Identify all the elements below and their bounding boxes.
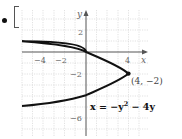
tick-x-neg2: −2	[55, 56, 67, 65]
equation-rhs: − 4y	[128, 101, 155, 112]
equation-lhs: x = −y	[90, 101, 124, 112]
tick-x-neg4: −4	[34, 56, 46, 65]
tick-y-neg6: −6	[70, 114, 82, 123]
equation-label: x = −y2 − 4y	[90, 100, 155, 112]
x-axis-label: x	[141, 55, 146, 65]
y-axis-label: y	[76, 9, 83, 19]
vertex-label: (4, −2)	[131, 76, 163, 86]
tick-y-2: 2	[78, 28, 83, 37]
parabola-graph: x y −4 −2 4 2 −2 −6 (4, −2) x = −y2 − 4y	[0, 0, 182, 139]
y-axis-arrow-icon	[84, 10, 89, 16]
vertex-point	[126, 71, 130, 75]
tick-y-neg2: −2	[70, 70, 82, 79]
x-axis-arrow-icon	[142, 50, 148, 55]
tick-x-4: 4	[125, 56, 130, 65]
